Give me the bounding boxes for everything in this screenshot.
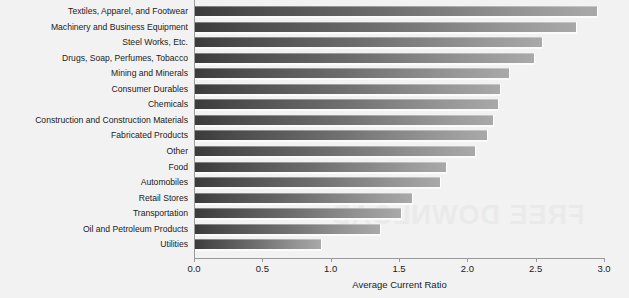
x-tick bbox=[536, 258, 537, 262]
category-label: Oil and Petroleum Products bbox=[83, 222, 188, 238]
category-label: Drugs, Soap, Perfumes, Tobacco bbox=[62, 51, 188, 67]
bar-row: Food bbox=[0, 160, 629, 176]
bar-row: Transportation bbox=[0, 206, 629, 222]
bar bbox=[195, 68, 509, 78]
x-tick-label: 1.0 bbox=[324, 263, 337, 274]
x-tick-label: 0.5 bbox=[256, 263, 269, 274]
category-label: Retail Stores bbox=[139, 191, 188, 207]
category-label: Fabricated Products bbox=[111, 128, 188, 144]
x-tick bbox=[262, 258, 263, 262]
category-label: Food bbox=[168, 160, 188, 176]
bar bbox=[195, 208, 401, 218]
x-tick bbox=[399, 258, 400, 262]
bar bbox=[195, 115, 493, 125]
bar bbox=[195, 84, 500, 94]
plot-area: Textiles, Apparel, and FootwearMachinery… bbox=[0, 0, 629, 298]
x-tick-label: 1.5 bbox=[392, 263, 405, 274]
x-tick bbox=[331, 258, 332, 262]
x-tick-label: 3.0 bbox=[597, 263, 610, 274]
x-tick bbox=[194, 258, 195, 262]
x-tick-label: 0.0 bbox=[187, 263, 200, 274]
category-label: Construction and Construction Materials bbox=[35, 113, 188, 129]
bar-chart: FREE DOWNLOAD Textiles, Apparel, and Foo… bbox=[0, 0, 629, 298]
category-label: Chemicals bbox=[148, 97, 188, 113]
category-label: Utilities bbox=[160, 237, 188, 253]
x-axis-title: Average Current Ratio bbox=[194, 279, 605, 290]
x-tick bbox=[467, 258, 468, 262]
bar bbox=[195, 53, 534, 63]
y-axis-line bbox=[194, 0, 195, 258]
category-label: Other bbox=[167, 144, 189, 160]
bar-row: Machinery and Business Equipment bbox=[0, 20, 629, 36]
bar-row: Retail Stores bbox=[0, 191, 629, 207]
bar bbox=[195, 146, 475, 156]
bar-row: Steel Works, Etc. bbox=[0, 35, 629, 51]
bar bbox=[195, 162, 446, 172]
bar-row: Other bbox=[0, 144, 629, 160]
category-label: Automobiles bbox=[141, 175, 188, 191]
bar bbox=[195, 22, 576, 32]
category-label: Mining and Minerals bbox=[111, 66, 188, 82]
bar-row: Chemicals bbox=[0, 97, 629, 113]
category-label: Machinery and Business Equipment bbox=[51, 20, 188, 36]
bar bbox=[195, 130, 487, 140]
bar bbox=[195, 37, 542, 47]
bar bbox=[195, 177, 440, 187]
bar-row: Utilities bbox=[0, 237, 629, 253]
bar-row: Drugs, Soap, Perfumes, Tobacco bbox=[0, 51, 629, 67]
bar bbox=[195, 224, 380, 234]
bar-row: Textiles, Apparel, and Footwear bbox=[0, 4, 629, 20]
bar-row: Automobiles bbox=[0, 175, 629, 191]
category-label: Textiles, Apparel, and Footwear bbox=[68, 4, 188, 20]
bar bbox=[195, 193, 412, 203]
bar bbox=[195, 239, 321, 249]
bar-row: Oil and Petroleum Products bbox=[0, 222, 629, 238]
x-tick-label: 2.5 bbox=[529, 263, 542, 274]
bar-row: Fabricated Products bbox=[0, 128, 629, 144]
bar bbox=[195, 6, 597, 16]
bar-row: Construction and Construction Materials bbox=[0, 113, 629, 129]
category-label: Transportation bbox=[133, 206, 188, 222]
x-tick bbox=[604, 258, 605, 262]
category-label: Steel Works, Etc. bbox=[122, 35, 188, 51]
x-tick-label: 2.0 bbox=[461, 263, 474, 274]
category-label: Consumer Durables bbox=[112, 82, 188, 98]
bar-row: Mining and Minerals bbox=[0, 66, 629, 82]
bar bbox=[195, 99, 498, 109]
bar-row: Consumer Durables bbox=[0, 82, 629, 98]
